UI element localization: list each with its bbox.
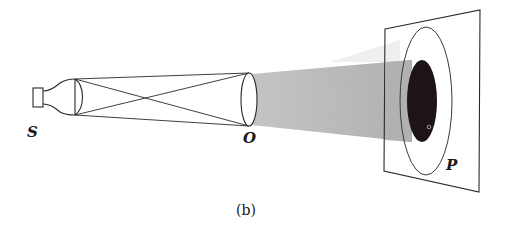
optics-diagram: S O P (b) — [0, 0, 511, 229]
screen-label: P — [445, 156, 458, 174]
ray-lines — [75, 73, 249, 126]
objective-label: O — [243, 129, 256, 147]
figure-caption: (b) — [236, 202, 256, 218]
light-source — [33, 79, 83, 115]
source-label: S — [27, 123, 38, 141]
dark-spot — [407, 60, 437, 142]
objective-lens — [241, 73, 257, 126]
screen-halo — [330, 40, 400, 62]
